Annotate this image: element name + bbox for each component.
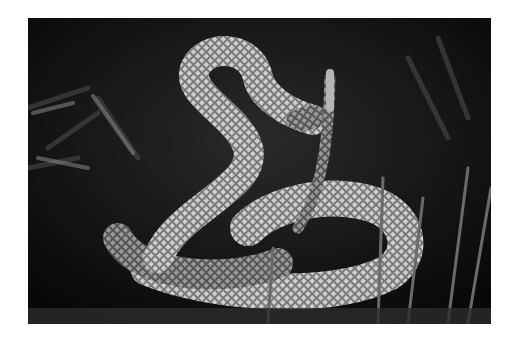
snake-photo: Black and white photograph of a rattlesn… [28, 18, 491, 324]
rattlesnake-illustration [28, 18, 491, 324]
